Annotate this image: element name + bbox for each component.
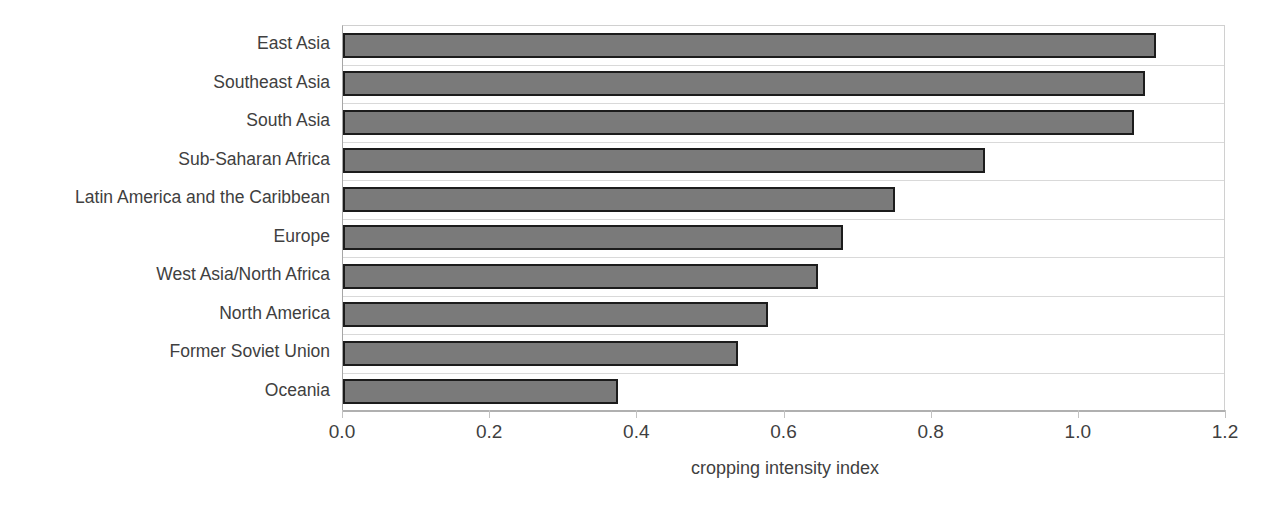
category-label: North America <box>0 305 330 323</box>
x-tick-mark <box>1225 410 1226 418</box>
category-label: South Asia <box>0 112 330 130</box>
category-label: Southeast Asia <box>0 74 330 92</box>
category-label: Europe <box>0 228 330 246</box>
x-axis-title: cropping intensity index <box>0 458 1270 479</box>
bar <box>343 264 818 289</box>
plot-area <box>342 25 1225 410</box>
x-axis-title-text: cropping intensity index <box>691 458 879 479</box>
category-label: Latin America and the Caribbean <box>0 189 330 207</box>
category-label: Sub-Saharan Africa <box>0 151 330 169</box>
x-tick-mark <box>489 410 490 418</box>
category-label: Former Soviet Union <box>0 343 330 361</box>
x-tick-label: 1.0 <box>1048 422 1108 441</box>
bar <box>343 110 1134 135</box>
bar <box>343 148 985 173</box>
bar <box>343 71 1145 96</box>
category-label: Oceania <box>0 382 330 400</box>
bar <box>343 187 895 212</box>
category-label: West Asia/North Africa <box>0 266 330 284</box>
category-label: East Asia <box>0 35 330 53</box>
x-tick-label: 1.2 <box>1195 422 1255 441</box>
x-tick-label: 0.8 <box>901 422 961 441</box>
bar <box>343 33 1156 58</box>
bar <box>343 379 618 404</box>
x-tick-mark <box>784 410 785 418</box>
x-tick-mark <box>1078 410 1079 418</box>
category-axis: East AsiaSoutheast AsiaSouth AsiaSub-Sah… <box>0 25 330 410</box>
x-tick-mark <box>931 410 932 418</box>
x-tick-label: 0.4 <box>606 422 666 441</box>
bar <box>343 341 738 366</box>
bar-chart: East AsiaSoutheast AsiaSouth AsiaSub-Sah… <box>0 0 1270 517</box>
x-tick-label: 0.0 <box>312 422 372 441</box>
bar <box>343 225 843 250</box>
x-tick-mark <box>342 410 343 418</box>
bar-series <box>343 26 1224 410</box>
x-tick-label: 0.2 <box>459 422 519 441</box>
x-tick-label: 0.6 <box>754 422 814 441</box>
x-tick-mark <box>636 410 637 418</box>
value-axis: 0.00.20.40.60.81.01.2 <box>342 410 1225 412</box>
bar <box>343 302 768 327</box>
